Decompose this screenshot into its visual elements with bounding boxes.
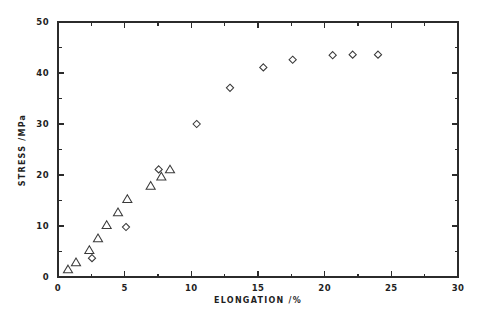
y-tick-label: 0 [43, 272, 49, 282]
y-tick-label: 10 [36, 221, 49, 231]
data-point-diamond [374, 51, 381, 58]
data-point-triangle [146, 182, 155, 190]
data-point-diamond [88, 255, 95, 262]
data-point-triangle [102, 221, 111, 229]
x-tick-label: 5 [122, 283, 128, 293]
data-point-triangle [93, 234, 102, 242]
y-axis-ticks [58, 22, 458, 277]
data-point-diamond [349, 51, 356, 58]
data-point-diamond [289, 56, 296, 63]
y-tick-label: 40 [36, 68, 49, 78]
data-point-triangle [157, 172, 166, 180]
plot-frame [58, 22, 458, 277]
y-tick-label: 50 [36, 17, 49, 27]
x-tick-label: 10 [185, 283, 198, 293]
x-tick-label: 0 [55, 283, 61, 293]
x-tick-label: 25 [385, 283, 398, 293]
x-axis-ticks [58, 22, 458, 277]
y-tick-label: 20 [36, 170, 49, 180]
scatter-plot-svg: 051015202530 01020304050 ELONGATION /% S… [0, 0, 484, 316]
data-point-triangle [165, 165, 174, 173]
data-point-diamond [122, 223, 129, 230]
data-point-triangle [63, 265, 72, 273]
data-markers [63, 51, 381, 273]
data-point-diamond [193, 120, 200, 127]
x-axis-tick-labels: 051015202530 [55, 283, 464, 293]
x-tick-label: 15 [252, 283, 265, 293]
y-axis-title: STRESS /MPa [18, 114, 27, 186]
data-point-triangle [113, 208, 122, 216]
y-axis-tick-labels: 01020304050 [36, 17, 49, 282]
data-point-triangle [71, 258, 80, 266]
data-point-diamond [260, 64, 267, 71]
chart-figure: 051015202530 01020304050 ELONGATION /% S… [0, 0, 484, 316]
y-tick-label: 30 [36, 119, 49, 129]
x-tick-label: 20 [318, 283, 331, 293]
data-point-diamond [226, 84, 233, 91]
data-point-triangle [85, 246, 94, 254]
data-point-diamond [329, 52, 336, 59]
data-point-triangle [123, 195, 132, 203]
x-tick-label: 30 [452, 283, 465, 293]
x-axis-title: ELONGATION /% [214, 296, 302, 305]
